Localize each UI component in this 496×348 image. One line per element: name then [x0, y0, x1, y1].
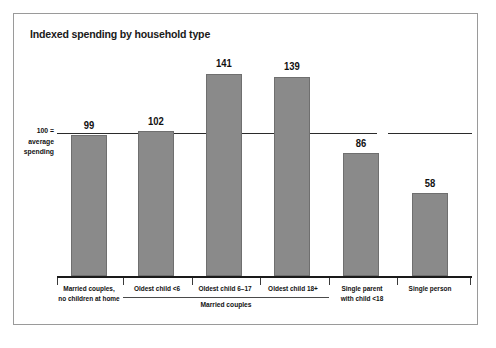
group-bracket-line: [123, 297, 329, 298]
bar-value-label: 139: [276, 60, 308, 72]
reference-line-segment: [57, 133, 105, 134]
bar-value-label: 99: [73, 119, 105, 131]
category-label-single-person: Single person: [392, 284, 468, 294]
reference-line-label: 100 = average spending: [20, 126, 54, 158]
bar-oldest-child-18-plus[interactable]: [274, 77, 310, 276]
bar-value-label: 86: [345, 137, 377, 149]
group-bracket-label: Married couples: [133, 300, 318, 309]
bar-single-parent-with-child[interactable]: [343, 153, 379, 276]
chart-page: Indexed spending by household type 100 =…: [0, 0, 496, 348]
category-label-line: with child <18: [322, 294, 401, 304]
bar-value-label: 58: [414, 177, 446, 189]
bar-value-label: 102: [140, 115, 172, 127]
reference-line-segment: [388, 133, 472, 134]
axis-tick: [470, 278, 471, 285]
reference-line-segment: [339, 133, 377, 134]
category-label-single-parent-with-child: Single parent with child <18: [322, 284, 401, 304]
category-label-line: Single parent: [322, 284, 401, 294]
bar-married-couples-no-children[interactable]: [71, 135, 107, 276]
category-label-line: Single person: [392, 284, 468, 294]
bar-single-person[interactable]: [412, 193, 448, 276]
reference-line-label-line2: average: [20, 137, 54, 148]
x-axis-line: [57, 276, 472, 278]
bar-oldest-child-6-17[interactable]: [206, 74, 242, 276]
bar-value-label: 141: [208, 57, 240, 69]
reference-line-label-line3: spending: [20, 147, 54, 158]
bar-oldest-child-under-6[interactable]: [138, 131, 174, 276]
reference-line-label-line1: 100 =: [20, 126, 54, 137]
plot-area: 100 = average spending 99 102 141 139 86…: [0, 0, 496, 348]
category-label-line: no children at home: [49, 294, 130, 304]
category-label-line: Oldest child 18+: [253, 284, 332, 294]
category-label-oldest-child-18-plus: Oldest child 18+: [253, 284, 332, 294]
